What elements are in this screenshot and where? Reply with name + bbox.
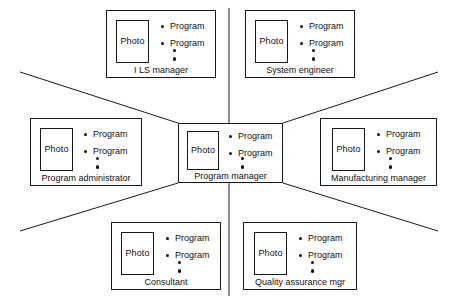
photo-placeholder: Photo bbox=[254, 232, 287, 275]
photo-placeholder: Photo bbox=[255, 20, 288, 63]
photo-placeholder: Photo bbox=[121, 232, 154, 275]
program-label: Program bbox=[386, 146, 421, 156]
ellipsis-dot bbox=[389, 157, 392, 160]
program-list: Program Program bbox=[377, 130, 421, 164]
program-item[interactable]: Program bbox=[299, 234, 343, 243]
org-diagram-canvas: Photo Program Program I LS manager bbox=[0, 0, 458, 304]
role-title: Program manager bbox=[179, 172, 282, 181]
photo-label: Photo bbox=[44, 145, 68, 154]
program-item[interactable]: Program bbox=[161, 22, 205, 31]
ellipsis-dot bbox=[311, 261, 314, 264]
vertical-ellipsis-icon bbox=[96, 157, 99, 174]
program-label: Program bbox=[175, 250, 210, 260]
bullet-icon bbox=[300, 42, 303, 45]
role-card-manufacturing-manager[interactable]: Photo Program Program Manufacturing mana… bbox=[320, 118, 437, 186]
ellipsis-dot bbox=[241, 157, 244, 160]
program-list: Program Program bbox=[161, 22, 205, 56]
card-body: Photo Program Program Manufacturing mana… bbox=[321, 119, 436, 185]
ellipsis-dot bbox=[96, 157, 99, 160]
bullet-icon bbox=[229, 135, 232, 138]
role-title: I LS manager bbox=[107, 66, 215, 75]
photo-label: Photo bbox=[336, 145, 360, 154]
card-body: Photo Program Program Program manager bbox=[179, 124, 282, 182]
program-list: Program Program bbox=[229, 132, 273, 166]
role-title: Program administrator bbox=[31, 174, 141, 183]
vertical-ellipsis-icon bbox=[311, 261, 314, 278]
photo-placeholder: Photo bbox=[187, 131, 219, 170]
ellipsis-dot bbox=[178, 269, 181, 272]
vertical-ellipsis-icon bbox=[173, 49, 176, 66]
program-label: Program bbox=[309, 21, 344, 31]
program-list: Program Program bbox=[84, 130, 128, 164]
role-title: Consultant bbox=[112, 278, 220, 287]
bullet-icon bbox=[377, 133, 380, 136]
bullet-icon bbox=[300, 25, 303, 28]
program-item[interactable]: Program bbox=[300, 22, 344, 31]
program-label: Program bbox=[93, 129, 128, 139]
ellipsis-dot bbox=[389, 165, 392, 168]
bullet-icon bbox=[166, 254, 169, 257]
program-label: Program bbox=[309, 38, 344, 48]
program-item[interactable]: Program bbox=[166, 234, 210, 243]
bullet-icon bbox=[166, 237, 169, 240]
ellipsis-dot bbox=[178, 261, 181, 264]
bullet-icon bbox=[299, 237, 302, 240]
role-card-quality-assurance-mgr[interactable]: Photo Program Program Quality assurance … bbox=[243, 222, 357, 290]
role-card-program-administrator[interactable]: Photo Program Program Program administra… bbox=[30, 118, 142, 186]
role-title: Manufacturing manager bbox=[321, 174, 436, 183]
program-list: Program Program bbox=[299, 234, 343, 268]
program-label: Program bbox=[308, 250, 343, 260]
program-item[interactable]: Program bbox=[377, 130, 421, 139]
bullet-icon bbox=[161, 25, 164, 28]
program-label: Program bbox=[238, 131, 273, 141]
line-upper-right-diagonal bbox=[283, 72, 438, 123]
program-item[interactable]: Program bbox=[377, 147, 421, 156]
program-label: Program bbox=[308, 233, 343, 243]
photo-placeholder: Photo bbox=[40, 128, 73, 171]
program-item[interactable]: Program bbox=[84, 147, 128, 156]
role-card-ils-manager[interactable]: Photo Program Program I LS manager bbox=[106, 10, 216, 78]
program-list: Program Program bbox=[300, 22, 344, 56]
program-item[interactable]: Program bbox=[300, 39, 344, 48]
card-body: Photo Program Program Quality assurance … bbox=[244, 223, 356, 289]
program-item[interactable]: Program bbox=[229, 132, 273, 141]
bullet-icon bbox=[377, 150, 380, 153]
program-item[interactable]: Program bbox=[84, 130, 128, 139]
program-item[interactable]: Program bbox=[299, 251, 343, 260]
program-label: Program bbox=[175, 233, 210, 243]
photo-placeholder: Photo bbox=[332, 128, 365, 171]
program-item[interactable]: Program bbox=[229, 149, 273, 158]
program-item[interactable]: Program bbox=[166, 251, 210, 260]
card-body: Photo Program Program I LS manager bbox=[107, 11, 215, 77]
role-title: System engineer bbox=[246, 66, 354, 75]
program-label: Program bbox=[386, 129, 421, 139]
ellipsis-dot bbox=[173, 49, 176, 52]
vertical-ellipsis-icon bbox=[178, 261, 181, 278]
ellipsis-dot bbox=[96, 165, 99, 168]
ellipsis-dot bbox=[241, 165, 244, 168]
program-item[interactable]: Program bbox=[161, 39, 205, 48]
role-card-program-manager[interactable]: Photo Program Program Program manager bbox=[178, 123, 283, 183]
photo-label: Photo bbox=[259, 37, 283, 46]
ellipsis-dot bbox=[173, 57, 176, 60]
bullet-icon bbox=[229, 152, 232, 155]
bullet-icon bbox=[84, 133, 87, 136]
ellipsis-dot bbox=[312, 57, 315, 60]
vertical-ellipsis-icon bbox=[312, 49, 315, 66]
photo-placeholder: Photo bbox=[116, 20, 149, 63]
ellipsis-dot bbox=[312, 49, 315, 52]
program-label: Program bbox=[170, 21, 205, 31]
vertical-ellipsis-icon bbox=[389, 157, 392, 174]
photo-label: Photo bbox=[120, 37, 144, 46]
bullet-icon bbox=[161, 42, 164, 45]
role-card-consultant[interactable]: Photo Program Program Consultant bbox=[111, 222, 221, 290]
card-body: Photo Program Program Consultant bbox=[112, 223, 220, 289]
bullet-icon bbox=[299, 254, 302, 257]
photo-label: Photo bbox=[258, 249, 282, 258]
role-card-system-engineer[interactable]: Photo Program Program System engineer bbox=[245, 10, 355, 78]
card-body: Photo Program Program System engineer bbox=[246, 11, 354, 77]
photo-label: Photo bbox=[191, 146, 215, 155]
bullet-icon bbox=[84, 150, 87, 153]
program-list: Program Program bbox=[166, 234, 210, 268]
role-title: Quality assurance mgr bbox=[244, 278, 356, 287]
